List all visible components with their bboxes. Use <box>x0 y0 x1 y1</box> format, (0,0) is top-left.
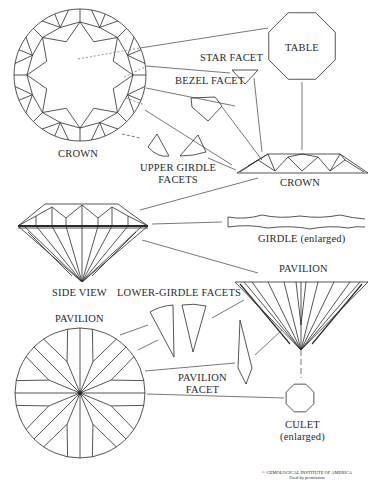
crown-facet-edge <box>15 55 32 63</box>
pavilion-facet-kite <box>238 320 252 384</box>
crown-facet-edge <box>128 55 145 63</box>
pavilion-facet-label: PAVILION FACET <box>178 372 227 396</box>
crown-facet-edge <box>15 86 32 94</box>
crown-facet-edge <box>33 28 42 37</box>
crown-side-facet <box>302 154 318 157</box>
girdle-label: GIRDLE (enlarged) <box>258 233 345 245</box>
copyright-line2: Used by permission <box>262 475 352 480</box>
crown-facet-edge <box>32 95 42 113</box>
pavilion-lower-girdle-edge <box>44 424 67 447</box>
crown-facet-edge <box>100 27 118 37</box>
lower-girdle-facet-left <box>150 305 174 357</box>
crown-facet-edge <box>42 37 66 41</box>
pavilion-side-facet <box>301 282 334 350</box>
star-facet-label: STAR FACET <box>200 52 263 64</box>
leader-pavilion-facet-to-pavilion <box>255 330 282 355</box>
pavilion-lower-girdle-edge <box>111 380 144 381</box>
culet-octagon <box>286 384 314 412</box>
pavilion-lower-girdle-edge <box>93 424 116 447</box>
lower-girdle-label: LOWER-GIRDLE FACETS <box>117 287 241 299</box>
crown-side-view <box>237 154 368 173</box>
girdle-bottom-edge <box>228 226 365 229</box>
pavilion-lower-girdle-edge <box>16 380 49 381</box>
crown-facet-edge <box>32 37 42 55</box>
pavilion-lower-girdle-edge <box>92 424 93 457</box>
lower-girdle-facet-right <box>182 304 206 352</box>
crown-top-view <box>14 9 146 141</box>
table-facet-shape <box>269 13 336 150</box>
pavilion-side-view <box>235 282 368 378</box>
crown-side-facet <box>248 160 258 166</box>
crown-facet-edge <box>42 27 60 37</box>
side-view-pavilion-facet <box>82 226 142 282</box>
pavilion-side-facet <box>252 282 301 350</box>
crown-facet-edge <box>94 108 118 112</box>
crown-facet-edge <box>42 123 60 130</box>
leader-to-crown-side <box>145 110 232 165</box>
leader-side-to-pavilion <box>142 240 258 273</box>
pavilion-lower-girdle-edge <box>93 339 116 362</box>
leader-lower-girdle-to-pavilion <box>212 300 244 318</box>
side-view-pavilion-facet <box>66 226 82 282</box>
pavilion-side-outline <box>235 282 368 350</box>
crown-side-facet <box>330 154 340 171</box>
culet-label-line1: CULET <box>280 419 325 431</box>
pavilion-bottom-label: PAVILION <box>55 313 104 325</box>
crown-facet-edge <box>26 95 33 113</box>
culet-label-line2: (enlarged) <box>280 431 325 443</box>
leader-to-star-facet <box>146 66 230 73</box>
side-view-pavilion-facet <box>82 226 128 282</box>
pavilion-lower-girdle-edge <box>111 406 134 429</box>
crown-facet-edge <box>94 37 118 41</box>
crown-leader-lines <box>122 28 268 165</box>
pavilion-facet-label-line2: FACET <box>178 384 227 396</box>
crown-facet-edge <box>118 113 127 122</box>
pavilion-lower-girdle-edge <box>67 424 68 457</box>
upper-girdle-label-line2: FACETS <box>140 174 216 186</box>
side-view-pavilion-facet <box>28 232 72 276</box>
crown-facet-edge <box>42 89 46 113</box>
upper-girdle-label: UPPER GIRDLE FACETS <box>140 162 216 186</box>
crown-facet-edge <box>91 123 99 140</box>
side-view-crown-facets <box>18 205 148 226</box>
pavilion-lower-girdle-edge <box>111 357 134 380</box>
pavilion-side-facet <box>301 282 350 350</box>
crown-top-label: CROWN <box>58 148 98 160</box>
side-view-pavilion-facet <box>36 226 82 282</box>
leader-bezel-to-crown <box>222 107 262 160</box>
leader-star-to-crown <box>254 78 262 152</box>
crown-facet-edge <box>113 37 117 61</box>
crown-facet-edge <box>100 123 118 130</box>
leader-to-lower-girdle-2 <box>138 340 158 350</box>
crown-facet-edge <box>60 123 68 140</box>
culet-shape <box>286 384 314 412</box>
crown-facet-edge <box>128 95 135 113</box>
pavilion-lower-girdle-edge <box>44 339 67 362</box>
crown-facet-edge <box>100 21 118 28</box>
pavilion-main-facet-edge <box>34 393 80 439</box>
crown-facet-edge <box>118 37 128 55</box>
crown-facet-edge <box>42 21 60 28</box>
crown-facet-edge <box>128 37 135 55</box>
crown-facet-edge <box>91 10 99 27</box>
side-view-outline <box>18 204 148 282</box>
side-view-pavilion-facet <box>82 226 112 282</box>
pavilion-side-facet <box>240 284 290 344</box>
crown-facet-edge <box>113 89 117 113</box>
crown-side-facet <box>288 154 302 157</box>
pavilion-side-facet <box>296 282 301 325</box>
side-view-diamond <box>18 204 148 282</box>
table-label: TABLE <box>285 42 319 54</box>
pavilion-main-facet-edge <box>80 393 126 439</box>
leader-side-to-girdle <box>152 222 222 224</box>
upper-girdle-label-line1: UPPER GIRDLE <box>140 162 216 174</box>
crown-facet-edge <box>42 37 46 61</box>
pavilion-lower-girdle-edge <box>26 406 49 429</box>
pavilion-main-facet-edge <box>80 347 126 393</box>
girdle-top-edge <box>228 215 365 219</box>
copyright-notice: © GEMOLOGICAL INSTITUTE OF AMERICA Used … <box>262 470 352 480</box>
pavilion-facet-shape <box>238 320 252 384</box>
crown-facet-edge <box>42 113 60 123</box>
girdle-enlarged <box>228 215 365 229</box>
pavilion-bottom-view <box>15 328 145 458</box>
